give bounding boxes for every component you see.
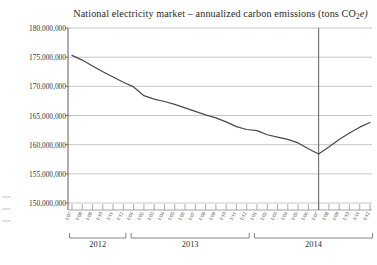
x-axis-tick-label: 1/08 <box>197 210 207 221</box>
chart-container: National electricity market – annualized… <box>0 0 377 265</box>
x-axis-tick-label: 1/01 <box>248 210 258 221</box>
x-axis-tick-label: 1/05 <box>166 210 176 221</box>
data-series-line <box>72 55 370 154</box>
x-axis-tick-label: 1/09 <box>84 210 94 221</box>
x-axis-tick-label: 1/10 <box>217 210 227 221</box>
x-axis-tick-label: 1/03 <box>269 210 279 221</box>
x-axis-tick-label: 1/01 <box>125 210 135 221</box>
x-axis-tick-label: 1/10 <box>341 210 351 221</box>
x-axis-tick-label: 1/07 <box>310 210 320 221</box>
x-axis-tick-label: 1/10 <box>94 210 104 221</box>
x-axis-tick-label: 1/12 <box>115 210 125 221</box>
x-axis-tick-label: 1/04 <box>279 210 289 221</box>
x-axis-tick-label: 1/11 <box>105 210 115 221</box>
x-axis-tick-label: 1/12 <box>361 210 371 221</box>
x-axis-tick-label: 1/11 <box>351 210 361 221</box>
x-axis-tick-label: 1/08 <box>74 210 84 221</box>
x-axis-tick-label: 1/05 <box>289 210 299 221</box>
x-axis-tick-label: 1/12 <box>238 210 248 221</box>
x-axis-tick-label: 1/06 <box>176 210 186 221</box>
x-axis-tick-label: 1/09 <box>207 210 217 221</box>
x-axis-tick-label: 1/04 <box>156 210 166 221</box>
year-band-bracket <box>70 233 126 238</box>
x-axis-tick-label: 1/03 <box>146 210 156 221</box>
x-axis-tick-label: 1/09 <box>331 210 341 221</box>
year-band-bracket <box>254 233 372 238</box>
year-band-bracket <box>131 233 249 238</box>
x-axis-tick-label: 1/07 <box>63 210 73 221</box>
x-axis-tick-label: 1/06 <box>300 210 310 221</box>
x-axis-tick-label: 1/07 <box>187 210 197 221</box>
x-axis-tick-label: 1/08 <box>320 210 330 221</box>
x-axis-tick-label: 1/02 <box>135 210 145 221</box>
x-axis-tick-label: 1/02 <box>259 210 269 221</box>
x-axis-tick-label: 1/11 <box>228 210 238 221</box>
plot-area: 1/071/081/091/101/111/121/011/021/031/04… <box>0 0 377 265</box>
